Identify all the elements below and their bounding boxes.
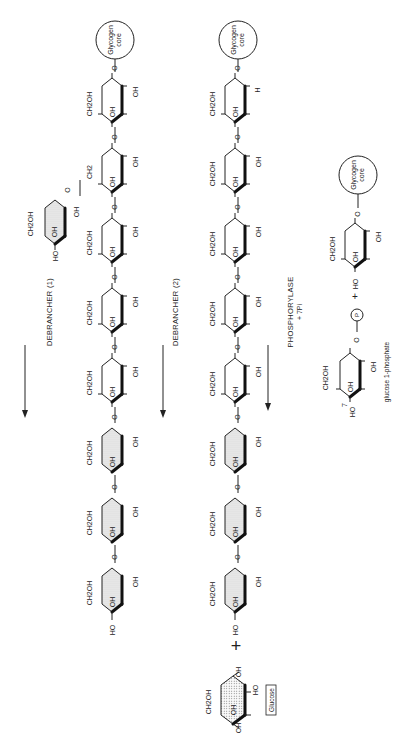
svg-text:O: O — [111, 344, 118, 350]
debrancher-2-label: DEBRANCHER (2) — [171, 278, 180, 346]
svg-text:CH2OH: CH2OH — [86, 371, 93, 396]
svg-text:Glycogen: Glycogen — [350, 160, 358, 190]
svg-text:OH: OH — [375, 232, 382, 243]
svg-text:OH: OH — [232, 527, 239, 538]
svg-text:O: O — [111, 274, 118, 280]
row1-unit-4: CH2OH OH OH — [86, 283, 139, 337]
svg-text:OH: OH — [132, 577, 139, 588]
svg-text:OH: OH — [232, 107, 239, 118]
row2-unit-6-shaded: CH2OH OH OH — [209, 428, 262, 472]
svg-text:CH2OH: CH2OH — [209, 302, 216, 327]
svg-text:HO: HO — [109, 624, 116, 635]
svg-text:OH: OH — [232, 317, 239, 328]
row1-unit-2-branchpoint: CH2 OH OH O — [64, 143, 139, 197]
svg-text:OH: OH — [132, 297, 139, 308]
glucose-1-phosphate-unit: CH2OH OH OH HO 7 — [322, 348, 377, 417]
phosphate-count-label: + 7Pi — [296, 303, 303, 320]
count-seven: 7 — [341, 403, 348, 407]
row2-unit-3: CH2OH OH OH — [209, 213, 262, 267]
svg-text:OH: OH — [255, 577, 262, 588]
svg-text:CH2OH: CH2OH — [209, 232, 216, 257]
row2-unit-5: CH2OH OH OH — [209, 353, 262, 407]
svg-text:OH: OH — [51, 227, 58, 238]
glucose-label: Glucose — [268, 688, 275, 712]
svg-text:OH: OH — [235, 667, 242, 678]
svg-text:CH2OH: CH2OH — [86, 441, 93, 466]
debrancher-1-label: DEBRANCHER (1) — [45, 278, 54, 346]
svg-text:HO: HO — [349, 406, 356, 417]
row2-unit-2: CH2OH OH OH — [209, 143, 262, 197]
svg-text:O: O — [234, 484, 241, 490]
svg-text:OH: OH — [232, 457, 239, 468]
glucose-1-phosphate-label: glucose 1-phosphate — [383, 341, 391, 402]
svg-text:OH: OH — [132, 87, 139, 98]
plus-sign: + — [231, 636, 242, 656]
svg-text:O: O — [234, 274, 241, 280]
svg-text:OH: OH — [109, 457, 116, 468]
svg-text:CH2OH: CH2OH — [205, 690, 212, 715]
svg-text:O: O — [234, 134, 241, 140]
row1-unit-8-shaded: CH2OH OH OH HO — [86, 568, 139, 635]
row3-products: Glycogen core O CH2OH OH OH HO + P O CH2… — [322, 156, 391, 417]
svg-text:OH: OH — [232, 387, 239, 398]
row1-unit-7-shaded: CH2OH OH OH — [86, 498, 139, 542]
svg-text:CH2OH: CH2OH — [329, 237, 336, 262]
svg-text:O: O — [111, 484, 118, 490]
svg-text:OH: OH — [109, 527, 116, 538]
svg-text:O: O — [234, 414, 241, 420]
row1-branched-chain: Glycogen core O CH2OH OH OH O CH2 OH OH … — [27, 21, 139, 635]
svg-text:OH: OH — [73, 207, 80, 218]
free-glucose: CH2OH OH OH HO OH Glucose — [205, 667, 276, 734]
svg-text:OH: OH — [255, 367, 262, 378]
svg-text:OH: OH — [230, 705, 237, 716]
svg-text:OH: OH — [232, 597, 239, 608]
svg-text:OH: OH — [109, 247, 116, 258]
svg-text:OH: OH — [255, 227, 262, 238]
svg-text:OH: OH — [132, 437, 139, 448]
diagram-canvas: Glycogen core O CH2OH OH OH O CH2 OH OH … — [0, 0, 396, 750]
svg-text:P: P — [354, 313, 360, 317]
svg-text:CH2OH: CH2OH — [209, 372, 216, 397]
svg-text:OH: OH — [109, 317, 116, 328]
svg-text:CH2OH: CH2OH — [209, 582, 216, 607]
svg-text:O: O — [354, 211, 361, 217]
svg-text:OH: OH — [255, 297, 262, 308]
svg-text:OH: OH — [109, 107, 116, 118]
svg-text:CH2: CH2 — [86, 165, 93, 179]
svg-text:OH: OH — [109, 597, 116, 608]
svg-text:OH: OH — [109, 387, 116, 398]
svg-text:Glycogen: Glycogen — [230, 25, 238, 55]
row2-linear-chain: Glycogen core O CH2OH OH H O CH2OH OH OH… — [205, 21, 276, 733]
row2-unit-4: CH2OH OH OH — [209, 283, 262, 337]
row1-unit-1: CH2OH OH OH — [86, 73, 139, 127]
svg-text:HO: HO — [352, 278, 359, 289]
svg-text:H: H — [254, 87, 261, 92]
svg-text:OH: OH — [132, 227, 139, 238]
svg-text:O: O — [234, 344, 241, 350]
svg-text:OH: OH — [352, 252, 359, 263]
row2-unit-1: CH2OH OH H — [209, 73, 261, 127]
svg-text:CH2OH: CH2OH — [209, 162, 216, 187]
svg-text:core: core — [238, 33, 245, 47]
plus-sign-2: + — [352, 291, 358, 302]
svg-text:OH: OH — [109, 177, 116, 188]
svg-text:OH: OH — [132, 507, 139, 518]
svg-text:OH: OH — [232, 177, 239, 188]
svg-text:O: O — [111, 65, 118, 71]
svg-text:OH: OH — [347, 382, 354, 393]
svg-text:core: core — [358, 168, 365, 182]
svg-text:HO: HO — [52, 250, 59, 261]
svg-text:O: O — [111, 554, 118, 560]
row3-chain-end-unit: CH2OH OH OH HO — [329, 218, 382, 289]
svg-text:OH: OH — [235, 723, 242, 734]
svg-text:O: O — [64, 187, 71, 193]
svg-text:HO: HO — [232, 624, 239, 635]
svg-text:O: O — [234, 554, 241, 560]
svg-text:CH2OH: CH2OH — [209, 442, 216, 467]
svg-text:OH: OH — [370, 362, 377, 373]
svg-text:CH2OH: CH2OH — [86, 301, 93, 326]
svg-text:O: O — [111, 204, 118, 210]
svg-text:OH: OH — [132, 157, 139, 168]
svg-text:OH: OH — [255, 437, 262, 448]
svg-text:O: O — [234, 204, 241, 210]
